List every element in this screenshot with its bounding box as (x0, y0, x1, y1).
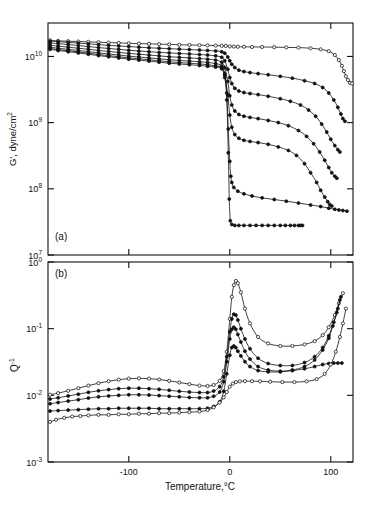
yaxis-title-a: G', dyne/cm2 (6, 112, 18, 166)
y-tick-label-text: 109 (28, 116, 42, 128)
data-point-curve-b4 (248, 365, 251, 368)
data-point-curve-1 (333, 53, 336, 56)
data-point-curve-b1 (256, 335, 259, 338)
data-point-curve-b5 (178, 411, 181, 414)
data-point-curve-3 (279, 97, 282, 100)
scientific-figure: 1010109108107(a)10010-110-210-3-1000100(… (0, 0, 372, 510)
data-point-curve-1 (242, 45, 245, 48)
data-point-curve-b3 (228, 337, 231, 340)
data-point-curve-6 (236, 190, 239, 193)
data-point-curve-b2 (218, 385, 221, 388)
series-line-curve-3 (50, 43, 340, 152)
data-point-curve-3 (230, 82, 233, 85)
data-point-curve-4 (188, 56, 191, 59)
data-point-curve-3 (320, 123, 323, 126)
data-point-curve-4 (206, 58, 209, 61)
data-point-curve-b1 (97, 382, 100, 385)
data-point-curve-1 (337, 59, 340, 62)
data-point-curve-b5 (338, 335, 341, 338)
data-point-curve-b5 (344, 307, 347, 310)
data-point-curve-3 (117, 48, 120, 51)
data-point-curve-6 (319, 205, 322, 208)
data-point-curve-b4 (137, 407, 140, 410)
data-point-curve-3 (188, 52, 191, 55)
data-point-curve-b1 (127, 377, 130, 380)
data-point-curve-b5 (281, 380, 284, 383)
data-point-curve-7 (117, 56, 120, 59)
data-point-curve-b4 (291, 369, 294, 372)
page-header-faint-text (170, 1, 310, 9)
data-point-curve-7 (220, 67, 223, 70)
data-point-curve-b5 (147, 412, 150, 415)
y-tick-label: 10-1 (26, 322, 42, 334)
data-point-curve-b3 (168, 395, 171, 398)
data-point-curve-b5 (127, 413, 130, 416)
data-point-curve-b2 (137, 387, 140, 390)
data-point-curve-b2 (67, 394, 70, 397)
data-point-curve-5 (277, 145, 280, 148)
data-point-curve-b4 (67, 409, 70, 412)
data-point-curve-b4 (158, 407, 161, 410)
data-point-curve-b3 (57, 401, 60, 404)
data-point-curve-b5 (341, 322, 344, 325)
data-point-curve-2 (117, 44, 120, 47)
data-point-curve-7 (293, 224, 296, 227)
data-point-curve-1 (127, 42, 130, 45)
data-point-curve-3 (127, 49, 130, 52)
data-point-curve-b2 (127, 387, 130, 390)
data-point-curve-b2 (97, 389, 100, 392)
data-point-curve-b2 (313, 355, 316, 358)
data-point-curve-b3 (188, 396, 191, 399)
data-point-curve-2 (206, 49, 209, 52)
data-point-curve-5 (228, 114, 231, 117)
data-point-curve-2 (223, 52, 226, 55)
data-point-curve-7 (230, 223, 233, 226)
data-point-curve-7 (233, 224, 236, 227)
data-point-curve-b2 (303, 361, 306, 364)
data-point-curve-b2 (77, 393, 80, 396)
data-point-curve-b4 (117, 407, 120, 410)
data-point-curve-b2 (87, 391, 90, 394)
data-point-curve-b1 (57, 392, 60, 395)
y-tick-label-text: 10-3 (26, 456, 42, 468)
data-point-curve-6 (309, 203, 312, 206)
data-point-curve-3 (299, 103, 302, 106)
data-point-curve-2 (168, 47, 171, 50)
data-point-curve-b5 (54, 418, 57, 421)
data-point-curve-3 (257, 93, 260, 96)
data-point-curve-3 (158, 51, 161, 54)
data-point-curve-6 (229, 175, 232, 178)
plot-frame (48, 262, 353, 462)
series-line-curve-b4 (50, 346, 342, 411)
data-point-curve-b3 (257, 365, 260, 368)
data-point-curve-b5 (206, 409, 209, 412)
data-point-curve-b1 (267, 342, 270, 345)
data-point-curve-2 (220, 50, 223, 53)
data-point-curve-b5 (225, 390, 228, 393)
data-point-curve-7 (223, 76, 226, 79)
data-point-curve-b3 (234, 328, 237, 331)
data-point-curve-b5 (117, 413, 120, 416)
data-point-curve-4 (330, 171, 333, 174)
data-point-curve-b4 (340, 362, 343, 365)
data-point-curve-b1 (341, 292, 344, 295)
data-point-curve-b2 (267, 362, 270, 365)
data-point-curve-7 (107, 55, 110, 58)
data-point-curve-b3 (67, 400, 70, 403)
data-point-curve-4 (168, 55, 171, 58)
data-point-curve-7 (206, 65, 209, 68)
data-point-curve-b3 (327, 337, 330, 340)
data-point-curve-3 (237, 90, 240, 93)
data-point-curve-b3 (107, 394, 110, 397)
data-point-curve-4 (237, 113, 240, 116)
data-point-curve-b3 (87, 397, 90, 400)
data-point-curve-2 (303, 79, 306, 82)
data-point-curve-1 (214, 44, 217, 47)
series-line-curve-2 (50, 41, 345, 121)
data-point-curve-b1 (206, 384, 209, 387)
data-point-curve-5 (309, 171, 312, 174)
data-point-curve-1 (147, 42, 150, 45)
data-point-curve-b5 (157, 412, 160, 415)
data-point-curve-3 (178, 52, 181, 55)
data-point-curve-b2 (234, 314, 237, 317)
